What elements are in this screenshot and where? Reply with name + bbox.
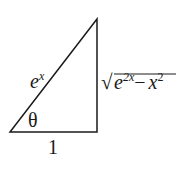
opposite-label: √ e2x−x2	[101, 70, 176, 94]
svg-text:√: √	[101, 70, 113, 94]
triangle-diagram: ex √ e2x−x2 θ 1	[0, 0, 183, 176]
angle-label: θ	[28, 109, 38, 131]
adjacent-label: 1	[48, 136, 58, 158]
svg-text:e2x−x2: e2x−x2	[114, 70, 163, 93]
right-triangle	[10, 19, 97, 132]
